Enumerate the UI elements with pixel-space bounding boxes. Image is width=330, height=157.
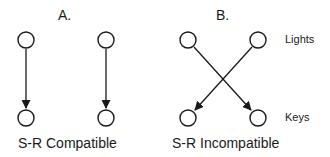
panel-b-arrow-right-to-left xyxy=(195,47,252,110)
row-label-lights: Lights xyxy=(285,34,314,45)
panel-a-light-right xyxy=(98,32,114,48)
panel-b-key-left xyxy=(180,110,196,126)
panel-a-caption: S-R Compatible xyxy=(18,136,117,150)
panel-a-label: A. xyxy=(58,8,71,22)
panel-a-key-right xyxy=(98,110,114,126)
panel-b-light-left xyxy=(180,32,196,48)
panel-b-key-right xyxy=(250,110,266,126)
panel-a-diagram xyxy=(18,32,114,126)
panel-b-caption: S-R Incompatible xyxy=(172,136,279,150)
panel-b-arrow-left-to-right xyxy=(194,47,251,110)
panel-a-key-left xyxy=(18,110,34,126)
panel-b-diagram xyxy=(180,32,266,126)
row-label-keys: Keys xyxy=(285,112,309,123)
panel-a-light-left xyxy=(18,32,34,48)
panel-b-label: B. xyxy=(216,8,229,22)
sr-compatibility-diagram xyxy=(0,0,330,157)
panel-b-light-right xyxy=(250,32,266,48)
